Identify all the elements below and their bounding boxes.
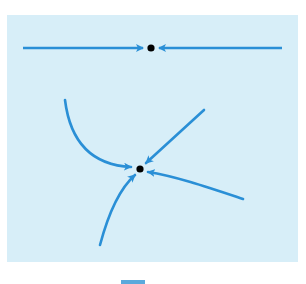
lower-curve-trajectory <box>100 175 135 245</box>
upper-left-curve-trajectory <box>65 100 131 167</box>
footer-mark <box>121 280 145 284</box>
right-curve-trajectory <box>148 172 243 199</box>
upper-right-line-trajectory <box>146 110 204 163</box>
equilibrium-point-icon <box>147 44 154 51</box>
equilibrium-point-icon <box>136 165 143 172</box>
top-portrait <box>23 44 282 51</box>
bottom-portrait <box>65 100 243 245</box>
phase-portrait-diagram <box>0 0 306 284</box>
